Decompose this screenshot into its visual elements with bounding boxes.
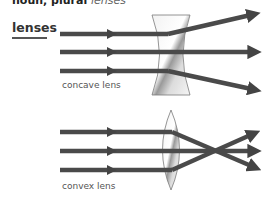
- lens-diagram: [0, 0, 271, 203]
- convex-lens-diagram: [60, 110, 256, 190]
- concave-lens-caption: concave lens: [62, 80, 121, 90]
- ray-icon: [60, 47, 256, 57]
- convex-lens-caption: convex lens: [62, 181, 115, 191]
- concave-lens-icon: [152, 15, 190, 95]
